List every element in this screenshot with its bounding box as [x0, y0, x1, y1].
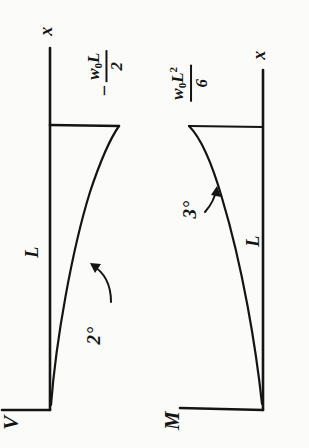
shear-axis-label-v: V — [1, 415, 22, 430]
numerator-base: w — [168, 88, 187, 99]
moment-end-ordinate — [189, 126, 263, 127]
shear-curve — [51, 126, 119, 405]
diagram-canvas — [0, 0, 309, 448]
fraction-denominator: 6 — [193, 77, 210, 90]
moment-end-value-label: w0L2 6 — [168, 65, 211, 102]
shear-diagram-group — [2, 48, 119, 410]
moment-span-label-l: L — [244, 235, 262, 247]
fraction-moment: w0L2 6 — [168, 65, 211, 102]
moment-axis-label-m: M — [162, 411, 183, 430]
scanned-page: V x L 2° − w0L 2 M x L 3° w0L2 6 — [0, 0, 309, 448]
shear-end-value-label: − w0L 2 — [83, 51, 126, 97]
numerator-subscript: 0 — [92, 63, 104, 69]
moment-m-axis-line — [180, 408, 263, 410]
moment-curve — [189, 126, 262, 404]
numerator-tail: L — [168, 72, 187, 82]
fraction-shear: w0L 2 — [83, 51, 126, 82]
shear-span-label-l: L — [23, 246, 41, 258]
shear-end-ordinate — [50, 125, 119, 126]
moment-axis-label-x: x — [250, 50, 268, 60]
numerator-subscript: 0 — [176, 83, 188, 89]
fraction-denominator: 2 — [109, 60, 126, 73]
minus-sign: − — [95, 85, 115, 96]
numerator-superscript: 2 — [167, 67, 179, 73]
numerator-base: w — [84, 68, 103, 79]
shear-degree-annotation: 2° — [84, 326, 103, 344]
fraction-numerator: w0L2 — [168, 65, 188, 102]
shear-axis-label-x: x — [37, 26, 55, 36]
moment-degree-annotation: 3° — [180, 200, 199, 218]
numerator-tail: L — [84, 53, 103, 63]
fraction-numerator: w0L — [83, 51, 103, 82]
